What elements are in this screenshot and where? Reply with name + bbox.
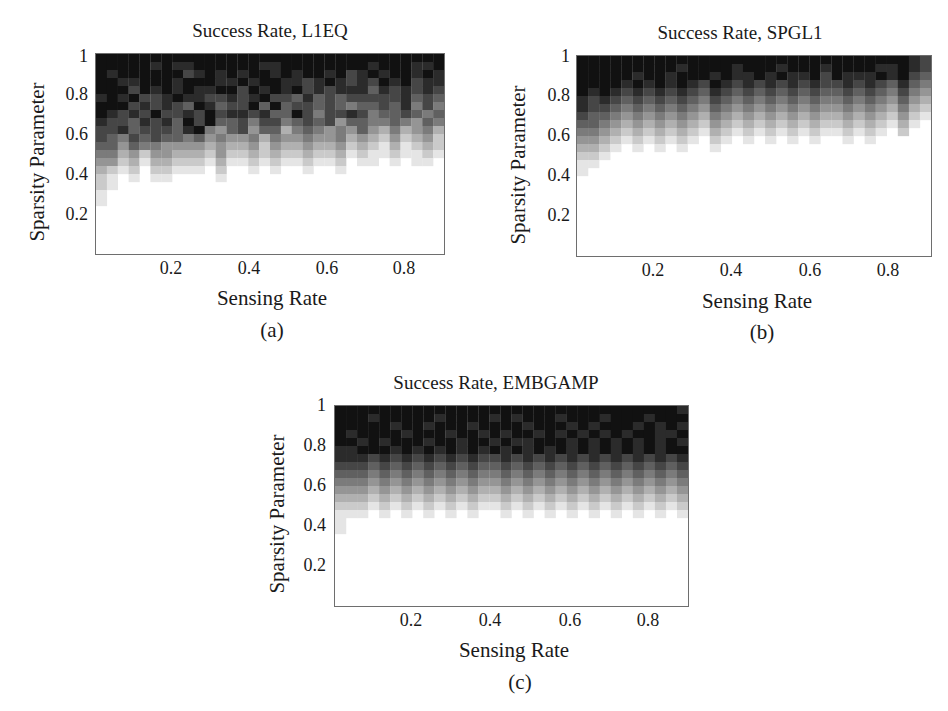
y-tick-label: 1 bbox=[286, 395, 326, 416]
y-tick-label: 0.4 bbox=[530, 165, 570, 186]
x-tick-label: 0.4 bbox=[479, 610, 502, 631]
chart-title: Success Rate, L1EQ bbox=[192, 20, 348, 42]
x-tick-label: 0.2 bbox=[400, 610, 423, 631]
y-tick-label: 1 bbox=[530, 46, 570, 67]
x-tick-label: 0.8 bbox=[877, 260, 900, 281]
y-tick-label: 0.8 bbox=[286, 435, 326, 456]
y-tick-label: 0.8 bbox=[530, 85, 570, 106]
y-tick-label: 1 bbox=[48, 46, 88, 67]
y-tick-label: 0.2 bbox=[286, 555, 326, 576]
y-tick-label: 0.6 bbox=[530, 125, 570, 146]
y-tick-label: 0.2 bbox=[48, 204, 88, 225]
panel-caption: (a) bbox=[260, 318, 283, 343]
y-axis-label: Sparsity Parameter bbox=[506, 85, 531, 244]
y-tick-label: 0.4 bbox=[48, 164, 88, 185]
x-tick-label: 0.8 bbox=[393, 258, 416, 279]
x-tick-label: 0.6 bbox=[799, 260, 822, 281]
x-tick-label: 0.8 bbox=[637, 610, 660, 631]
y-axis-label: Sparsity Parameter bbox=[25, 82, 50, 241]
panel-caption: (b) bbox=[750, 320, 775, 345]
x-tick-label: 0.2 bbox=[160, 258, 183, 279]
x-axis-label: Sensing Rate bbox=[217, 286, 327, 311]
x-axis-label: Sensing Rate bbox=[702, 289, 812, 314]
heatmap-plot-area bbox=[334, 405, 689, 607]
panel-caption: (c) bbox=[508, 670, 531, 695]
x-tick-label: 0.6 bbox=[559, 610, 582, 631]
y-tick-label: 0.8 bbox=[48, 84, 88, 105]
x-tick-label: 0.4 bbox=[720, 260, 743, 281]
y-tick-label: 0.6 bbox=[286, 475, 326, 496]
y-tick-label: 0.4 bbox=[286, 515, 326, 536]
heatmap-plot-area bbox=[576, 55, 932, 257]
heatmap-plot-area bbox=[95, 53, 445, 255]
x-tick-label: 0.6 bbox=[316, 258, 339, 279]
x-axis-label: Sensing Rate bbox=[459, 638, 569, 663]
x-tick-label: 0.2 bbox=[642, 260, 665, 281]
y-tick-label: 0.2 bbox=[530, 205, 570, 226]
chart-title: Success Rate, SPGL1 bbox=[657, 22, 822, 44]
y-tick-label: 0.6 bbox=[48, 124, 88, 145]
x-tick-label: 0.4 bbox=[238, 258, 261, 279]
chart-title: Success Rate, EMBGAMP bbox=[393, 372, 598, 394]
y-axis-label: Sparsity Parameter bbox=[265, 434, 290, 593]
